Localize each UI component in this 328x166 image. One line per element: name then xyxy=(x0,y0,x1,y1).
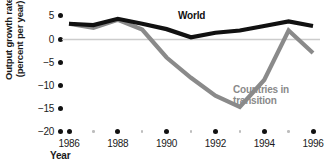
x-axis-tick-dot xyxy=(213,129,218,134)
x-axis-tick-label: 1992 xyxy=(195,138,235,149)
series-line-world xyxy=(69,19,313,37)
x-axis-tick-dot xyxy=(311,129,316,134)
x-axis-minor-tick-dot xyxy=(239,130,242,133)
x-axis-tick-label: 1994 xyxy=(244,138,284,149)
x-axis-tick-label: 1988 xyxy=(98,138,138,149)
x-axis-minor-tick-dot xyxy=(190,130,193,133)
x-axis-tick-label: 1986 xyxy=(49,138,89,149)
chart-container: Output growth rate (percent per year) 5 … xyxy=(0,0,328,166)
x-axis-title: Year xyxy=(50,150,70,161)
series-annotation-line1: Countries in xyxy=(233,84,289,95)
x-axis-tick-dot xyxy=(262,129,267,134)
x-axis-minor-tick-dot xyxy=(92,130,95,133)
x-axis-minor-tick-dot xyxy=(287,130,290,133)
x-axis-tick-label: 1996 xyxy=(293,138,328,149)
x-axis-tick-label: 1990 xyxy=(147,138,187,149)
series-annotation-world: World xyxy=(178,10,205,21)
x-axis-tick-dot xyxy=(67,129,72,134)
series-annotation-countries-in-transition: Countries in transition xyxy=(233,84,328,106)
series-annotation-line2: transition xyxy=(233,95,277,106)
